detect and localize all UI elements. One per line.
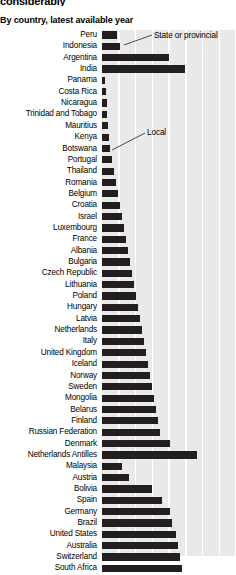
bar-row: Spain [0,495,236,506]
bar-label: United States [50,529,97,538]
bar-label: Bulgaria [68,257,97,266]
bar-row: Norway [0,371,236,382]
bar-row: Belgium [0,189,236,200]
bar-label: Luxembourg [53,223,97,232]
bar-row: Switzerland [0,552,236,563]
bar [102,99,107,106]
bar-row: Netherlands [0,325,236,336]
bar [102,247,128,254]
bar-row: Mongolia [0,393,236,404]
bar-row: Trinidad and Tobago [0,109,236,120]
bar-row: Australia [0,541,236,552]
bar [102,372,150,379]
bar [102,145,110,152]
bar-row: United Kingdom [0,348,236,359]
bar [102,156,112,163]
bar [102,88,106,95]
bar-label: Indonesia [63,41,97,50]
bar-row: Brazil [0,518,236,529]
bar-row: Thailand [0,166,236,177]
bar [102,304,138,311]
bar [102,383,152,390]
chart-subtitle: By country, latest available year [0,15,236,25]
bar-row: Iceland [0,359,236,370]
bar-row: Croatia [0,200,236,211]
bar-row: Romania [0,178,236,189]
bar-label: Sweden [68,382,97,391]
bar-row: Bulgaria [0,257,236,268]
bar-label: Malaysia [66,461,97,470]
bar-row: Indonesia [0,41,236,52]
chart-title: considerably [0,0,236,6]
bar [102,65,185,72]
bar [102,542,178,549]
bar [102,236,126,243]
bar-label: Israel [78,212,97,221]
bar-row: Panama [0,75,236,86]
bar [102,519,172,526]
bar [102,315,140,322]
bar [102,451,197,458]
bar-row: Costa Rica [0,87,236,98]
bar [102,202,120,209]
bar [102,463,122,470]
bar [102,190,118,197]
annotation-state-or-provincial: State or provincial [154,31,218,40]
bar [102,349,146,356]
bar [102,213,122,220]
bar-row: Argentina [0,53,236,64]
bar-label: Botswana [62,144,97,153]
bar-label: Panama [67,75,97,84]
bar-label: Belarus [70,405,97,414]
bar [102,440,170,447]
bar [102,179,116,186]
bar [102,395,154,402]
bar-row: Malaysia [0,461,236,472]
bar-label: Spain [77,495,97,504]
bar-label: Denmark [65,439,97,448]
bar-row: Czech Republic [0,268,236,279]
bar-label: Nicaragua [61,98,97,107]
bar-label: Italy [83,336,97,345]
bar [102,292,136,299]
bar-row: Sweden [0,382,236,393]
bar [102,406,156,413]
bar-row: South Africa [0,563,236,574]
bar-label: Switzerland [56,552,97,561]
bar-label: Czech Republic [42,268,97,277]
bar [102,168,114,175]
bar-row: Hungary [0,302,236,313]
bar [102,270,132,277]
bar [102,77,105,84]
bar-label: Costa Rica [58,87,97,96]
bar [102,122,108,129]
bar [102,531,176,538]
bar-row: Nicaragua [0,98,236,109]
bar-label: Argentina [63,53,97,62]
bar-row: Netherlands Antilles [0,450,236,461]
bar-label: South Africa [55,563,97,572]
bar-label: Belgium [68,189,97,198]
bar-row: Poland [0,291,236,302]
bar [102,31,117,38]
bar-row: Israel [0,212,236,223]
bar-label: Trinidad and Tobago [26,109,97,118]
bar-label: Kenya [75,132,97,141]
bar [102,429,160,436]
bar-label: Norway [70,371,97,380]
bar-row: Denmark [0,439,236,450]
bar-label: Brazil [77,518,97,527]
bar-row: Bolivia [0,484,236,495]
bar-row: India [0,64,236,75]
bar-label: Mongolia [65,393,97,402]
bar-row: France [0,234,236,245]
bar-row: Austria [0,473,236,484]
bar-label: Netherlands Antilles [28,450,97,459]
bar-row: Luxembourg [0,223,236,234]
bar [102,43,120,50]
bar-label: Portugal [68,155,97,164]
bar-label: Austria [73,473,97,482]
bar-label: Albania [71,246,97,255]
bar [102,281,134,288]
bar-label: Finland [71,416,97,425]
